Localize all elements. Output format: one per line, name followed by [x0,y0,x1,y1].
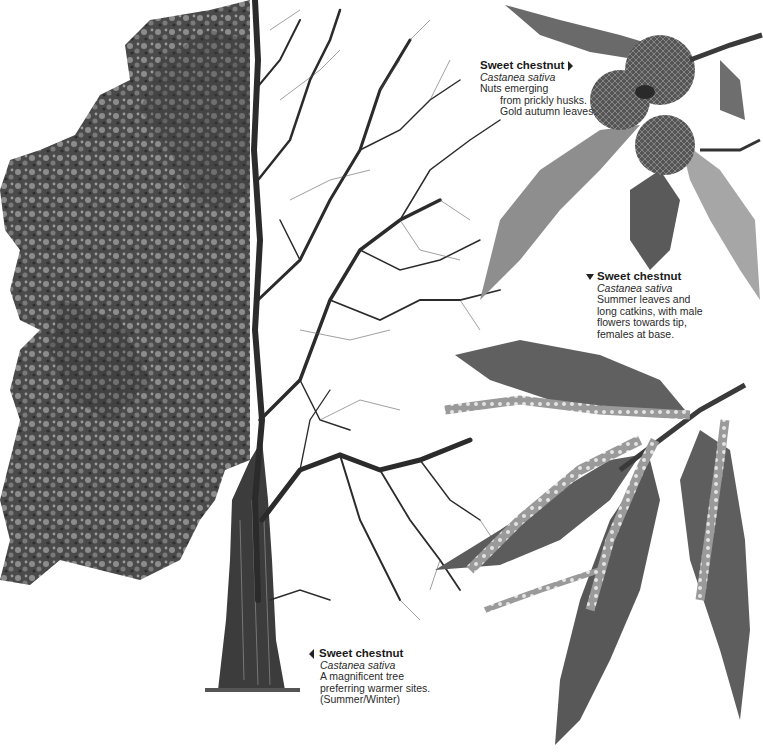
summer-sprig [435,340,750,745]
caption-summer-title: Sweet chestnut [586,271,703,283]
pointer-down-icon [586,274,594,280]
caption-autumn-line: Gold autumn leaves. [480,106,596,118]
caption-tree: Sweet chestnut Castanea sativa A magnifi… [309,648,430,706]
caption-summer: Sweet chestnut Castanea sativa Summer le… [586,271,703,341]
caption-autumn-title: Sweet chestnut [480,60,596,72]
pointer-left-icon [309,649,314,659]
summer-foliage [0,0,250,585]
autumn-sprig [480,5,762,300]
winter-branches [254,0,500,600]
caption-summer-line: females at base. [586,329,703,341]
pointer-right-icon [568,61,573,71]
fine-twigs [270,10,500,620]
caption-tree-line: (Summer/Winter) [309,694,430,706]
caption-autumn: Sweet chestnut Castanea sativa Nuts emer… [480,60,596,118]
caption-tree-title: Sweet chestnut [309,648,430,660]
chestnut-illustration [0,0,763,754]
